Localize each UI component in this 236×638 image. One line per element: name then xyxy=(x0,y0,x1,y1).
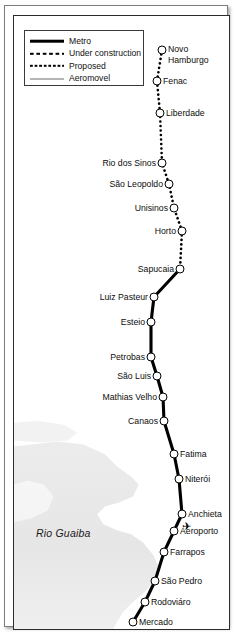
station-label-line: São Pedro xyxy=(161,576,202,586)
station-label-line: Rio dos Sinos xyxy=(102,158,156,168)
station-marker[interactable] xyxy=(170,204,178,212)
map-frame-outer: Rio Guaiba Metro Under construction Prop… xyxy=(4,5,228,627)
station-marker[interactable] xyxy=(150,293,158,301)
station-marker[interactable] xyxy=(147,353,155,361)
map-frame-inner: Rio Guaiba Metro Under construction Prop… xyxy=(13,15,230,630)
station-marker[interactable] xyxy=(178,227,186,235)
station-label[interactable]: Esteio xyxy=(121,317,145,327)
station-label[interactable]: São Pedro xyxy=(161,576,202,586)
station-label-line: Mercado xyxy=(139,617,173,627)
station-label-line: Unisinos xyxy=(135,203,168,213)
station-label-line: Luiz Pasteur xyxy=(100,292,148,302)
station-label[interactable]: Liberdade xyxy=(166,108,205,118)
station-label[interactable]: Mercado xyxy=(139,617,173,627)
station-markers xyxy=(129,46,186,626)
station-label-line: Canaos xyxy=(128,416,158,426)
station-marker[interactable] xyxy=(159,393,167,401)
station-marker[interactable] xyxy=(153,77,161,85)
station-label-line: Rodoviáro xyxy=(151,597,191,607)
station-marker[interactable] xyxy=(156,109,164,117)
station-label[interactable]: Petrobas xyxy=(110,352,145,362)
transit-map: Rio Guaiba Metro Under construction Prop… xyxy=(0,0,236,638)
station-label-line: Niterói xyxy=(185,474,210,484)
station-label-line: Liberdade xyxy=(166,108,205,118)
airplane-icon: ✈ xyxy=(182,521,191,532)
station-label[interactable]: Canaos xyxy=(128,416,158,426)
station-label-line: Petrobas xyxy=(110,352,145,362)
station-label-line: Novo xyxy=(168,44,209,55)
station-label-line: Fatima xyxy=(180,449,207,459)
station-label[interactable]: Farrapos xyxy=(170,547,205,557)
station-marker[interactable] xyxy=(165,180,173,188)
station-marker[interactable] xyxy=(170,527,178,535)
station-label-line: Horto xyxy=(155,226,176,236)
station-label[interactable]: Mathias Velho xyxy=(102,392,157,402)
station-marker[interactable] xyxy=(178,510,186,518)
station-label[interactable]: Unisinos xyxy=(135,203,168,213)
station-label[interactable]: Fatima xyxy=(180,449,207,459)
station-label-line: Fenac xyxy=(163,76,187,86)
station-marker[interactable] xyxy=(147,318,155,326)
station-label-line: Sapucaia xyxy=(138,264,174,274)
station-label-line: Esteio xyxy=(121,317,145,327)
station-label-line: Farrapos xyxy=(170,547,205,557)
station-label-line: Anchieta xyxy=(188,509,222,519)
station-label[interactable]: Rodoviáro xyxy=(151,597,191,607)
station-marker[interactable] xyxy=(158,46,166,54)
station-marker[interactable] xyxy=(153,372,161,380)
station-label[interactable]: Horto xyxy=(155,226,176,236)
station-label-line: Mathias Velho xyxy=(102,392,157,402)
station-marker[interactable] xyxy=(129,618,137,626)
station-marker[interactable] xyxy=(160,548,168,556)
station-marker[interactable] xyxy=(160,417,168,425)
station-label[interactable]: Luiz Pasteur xyxy=(100,292,148,302)
station-marker[interactable] xyxy=(158,159,166,167)
station-marker[interactable] xyxy=(151,577,159,585)
station-label[interactable]: Fenac xyxy=(163,76,187,86)
station-label-line: Hamburgo xyxy=(168,54,209,65)
station-label-line: São Luis xyxy=(117,371,151,381)
station-label[interactable]: Sapucaia xyxy=(138,264,174,274)
station-label[interactable]: NovoHamburgo xyxy=(168,44,209,65)
station-label[interactable]: São Leopoldo xyxy=(109,179,163,189)
station-label[interactable]: Rio dos Sinos xyxy=(102,158,156,168)
station-marker[interactable] xyxy=(170,450,178,458)
station-marker[interactable] xyxy=(176,265,184,273)
station-marker[interactable] xyxy=(141,598,149,606)
station-label-line: São Leopoldo xyxy=(109,179,163,189)
station-label[interactable]: Anchieta xyxy=(188,509,222,519)
station-label[interactable]: Niterói xyxy=(185,474,210,484)
station-marker[interactable] xyxy=(175,475,183,483)
station-label[interactable]: São Luis xyxy=(117,371,151,381)
